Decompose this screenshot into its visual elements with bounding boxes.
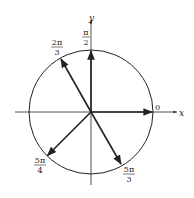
fraction-numerator: π: [83, 28, 88, 37]
fraction-denominator: 2: [83, 38, 88, 47]
vector-5pi-over-3: [91, 112, 121, 164]
angle-label-2pi-over-3: 2π 3: [51, 38, 63, 57]
angle-label-5pi-over-4: 5π 4: [34, 156, 46, 175]
angle-label-pi-over-2: π 2: [82, 28, 90, 47]
fraction-denominator: 3: [54, 48, 59, 57]
vector-5pi-over-4: [48, 112, 92, 156]
fraction-numerator: 5π: [124, 165, 134, 174]
angle-label-0: 0: [155, 103, 160, 112]
angle-label-5pi-over-3: 5π 3: [123, 165, 135, 184]
fraction-numerator: 2π: [52, 38, 62, 47]
vector-2pi-over-3: [61, 59, 91, 112]
fraction-denominator: 3: [126, 175, 131, 184]
x-axis-label: x: [179, 108, 184, 118]
unit-circle-diagram: y x 0 π 2 2π 3 5π 4 5π 3: [0, 0, 194, 198]
y-axis-label: y: [88, 13, 95, 23]
fraction-numerator: 5π: [35, 156, 45, 165]
fraction-denominator: 4: [37, 166, 42, 175]
